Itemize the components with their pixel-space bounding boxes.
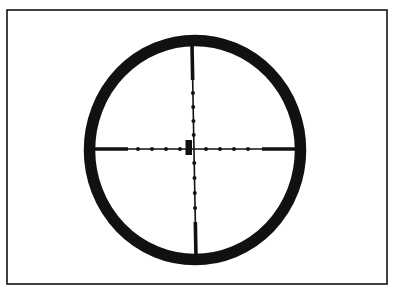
mil-dot [232,147,236,151]
mil-dot [193,176,197,180]
mil-dot [191,91,195,95]
reticle-svg [0,0,394,291]
mil-dot [192,161,196,165]
vertical-post [195,222,196,254]
center-mark [186,140,193,155]
mil-dot [193,191,197,195]
mil-dot [218,147,222,151]
mil-dot [193,206,197,210]
mil-dot [164,147,168,151]
mil-dot [192,133,196,137]
mil-dot [191,105,195,109]
mil-dot [246,147,250,151]
scope-reticle-diagram [0,0,394,291]
mil-dot [136,147,140,151]
vertical-post [192,46,193,80]
horizontal-crosshair [90,147,300,151]
mil-dot [178,147,182,151]
mil-dot [150,147,154,151]
mil-dot [191,119,195,123]
mil-dot [204,147,208,151]
